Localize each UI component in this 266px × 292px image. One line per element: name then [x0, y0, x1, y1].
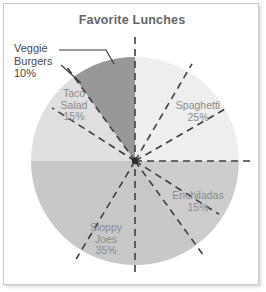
label-sloppy-joes-line3: 35%: [78, 245, 134, 257]
label-taco-salad-line1: Taco: [45, 88, 103, 100]
chart-frame: Favorite Lunches: [3, 3, 259, 285]
label-taco-salad: Taco Salad 15%: [45, 88, 103, 123]
label-veggie-burgers-line1: Veggie: [14, 42, 53, 55]
label-spaghetti: Spaghetti 25%: [167, 100, 229, 123]
label-spaghetti-line2: 25%: [167, 112, 229, 124]
label-veggie-burgers-line3: 10%: [14, 67, 53, 80]
label-sloppy-joes-line1: Sloppy: [78, 222, 134, 234]
label-sloppy-joes: Sloppy Joes 35%: [78, 222, 134, 257]
pie-center-point: [132, 158, 138, 164]
label-enchiladas-line2: 15%: [165, 202, 231, 214]
label-veggie-burgers-line2: Burgers: [14, 55, 53, 68]
label-taco-salad-line3: 15%: [45, 111, 103, 123]
label-enchiladas: Enchiladas 15%: [165, 190, 231, 213]
label-enchiladas-line1: Enchiladas: [165, 190, 231, 202]
label-spaghetti-line1: Spaghetti: [167, 100, 229, 112]
label-veggie-burgers: Veggie Burgers 10%: [14, 42, 53, 80]
